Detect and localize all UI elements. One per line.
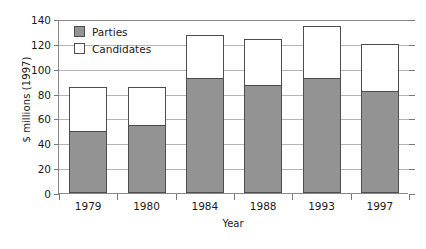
y-tick-right <box>409 169 415 170</box>
legend-item-candidates: Candidates <box>74 41 151 56</box>
y-axis-title: $ millions (1997) <box>21 30 32 170</box>
y-tick-label: 0 <box>44 188 51 200</box>
y-tick-label: 60 <box>38 113 51 125</box>
bar-segment-candidates <box>69 87 107 132</box>
bar-segment-parties <box>69 131 107 193</box>
y-tick-right <box>409 95 415 96</box>
bar-stack <box>128 87 166 193</box>
bar-segment-candidates <box>303 26 341 78</box>
chart-legend: Parties Candidates <box>74 24 151 58</box>
bar-stack <box>303 26 341 193</box>
legend-label-candidates: Candidates <box>92 43 151 55</box>
x-tick <box>409 194 410 200</box>
x-tick-label: 1988 <box>250 200 277 212</box>
y-tick-label: 40 <box>38 138 51 150</box>
x-tick-label: 1984 <box>191 200 218 212</box>
x-tick-label: 1997 <box>366 200 393 212</box>
bar-stack <box>69 87 107 193</box>
bar-segment-candidates <box>361 44 399 92</box>
y-tick-label: 20 <box>38 163 51 175</box>
y-tick-label: 140 <box>31 14 51 26</box>
x-tick <box>234 194 235 200</box>
bar-segment-candidates <box>244 39 282 86</box>
x-tick <box>117 194 118 200</box>
x-tick-label: 1980 <box>133 200 160 212</box>
y-tick-right <box>409 70 415 71</box>
y-tick-label: 120 <box>31 39 51 51</box>
y-tick-right <box>409 144 415 145</box>
x-axis-title: Year <box>58 218 408 229</box>
x-tick-label: 1979 <box>75 200 102 212</box>
bar-segment-parties <box>186 77 224 193</box>
y-tick-right <box>409 45 415 46</box>
y-tick-label: 80 <box>38 89 51 101</box>
x-tick <box>351 194 352 200</box>
y-tick-right <box>409 20 415 21</box>
bar-segment-parties <box>361 91 399 193</box>
x-tick <box>59 194 60 200</box>
bar-segment-parties <box>244 85 282 193</box>
bar-stack <box>186 35 224 193</box>
y-tick-right <box>409 119 415 120</box>
bar-stack <box>361 44 399 193</box>
bar-segment-candidates <box>128 87 166 125</box>
x-tick <box>292 194 293 200</box>
x-tick-label: 1993 <box>308 200 335 212</box>
legend-item-parties: Parties <box>74 24 151 39</box>
legend-swatch-parties-icon <box>74 26 85 37</box>
legend-label-parties: Parties <box>92 26 128 38</box>
bar-segment-parties <box>303 77 341 193</box>
stacked-bar-chart: $ millions (1997) 020406080100120140 197… <box>0 0 426 249</box>
legend-swatch-candidates-icon <box>74 43 85 54</box>
bar-segment-candidates <box>186 35 224 78</box>
bar-stack <box>244 39 282 193</box>
x-tick <box>176 194 177 200</box>
y-tick-label: 100 <box>31 64 51 76</box>
bar-segment-parties <box>128 125 166 193</box>
